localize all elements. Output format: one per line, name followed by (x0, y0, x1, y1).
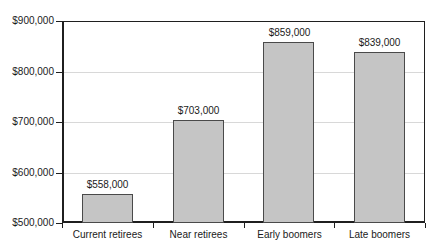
y-tick-mark (56, 122, 62, 123)
x-tick-mark (425, 223, 426, 228)
y-tick-mark (56, 72, 62, 73)
category-label: Near retirees (147, 229, 250, 241)
y-tick-mark (56, 173, 62, 174)
category-label: Early boomers (238, 229, 341, 241)
x-tick-mark (153, 223, 154, 228)
y-tick-label: $800,000 (0, 66, 54, 78)
bar-value-label: $703,000 (153, 105, 244, 117)
category-label: Late boomers (328, 229, 431, 241)
bar (173, 120, 224, 223)
bar (263, 42, 314, 223)
chart-layer: $500,000$600,000$700,000$800,000$900,000… (0, 0, 440, 252)
y-tick-label: $700,000 (0, 116, 54, 128)
x-tick-mark (334, 223, 335, 228)
category-label: Current retirees (56, 229, 159, 241)
bar (82, 194, 133, 223)
bar (354, 52, 405, 223)
x-tick-mark (244, 223, 245, 228)
y-tick-label: $600,000 (0, 167, 54, 179)
x-tick-mark (62, 223, 63, 228)
bar-value-label: $859,000 (244, 27, 335, 39)
bar-chart: $500,000$600,000$700,000$800,000$900,000… (0, 0, 440, 252)
bar-value-label: $558,000 (62, 179, 153, 191)
y-tick-label: $500,000 (0, 217, 54, 229)
y-tick-label: $900,000 (0, 15, 54, 27)
bar-value-label: $839,000 (334, 37, 425, 49)
y-tick-mark (56, 21, 62, 22)
